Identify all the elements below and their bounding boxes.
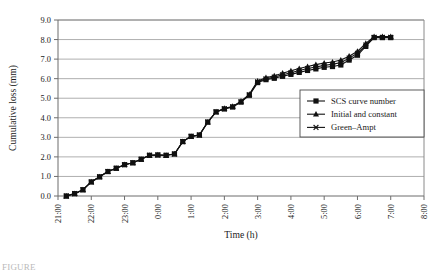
x-tick-label: 8:00 — [420, 204, 429, 219]
y-tick-label: 4.0 — [41, 114, 51, 123]
x-tick-label: 23:00 — [121, 204, 130, 223]
y-tick-label: 3.0 — [41, 133, 51, 142]
y-tick-label: 5.0 — [41, 94, 51, 103]
legend-marker-icon — [313, 98, 318, 103]
x-axis-title: Time (h) — [224, 229, 258, 241]
y-tick-label: 0.0 — [41, 192, 51, 201]
x-tick-label: 21:00 — [54, 204, 63, 223]
legend-label: Initial and constant — [331, 109, 397, 119]
chart-legend[interactable]: SCS curve numberInitial and constantGree… — [300, 90, 424, 137]
x-tick-label: 5:00 — [320, 204, 329, 219]
y-tick-label: 8.0 — [41, 36, 51, 45]
legend-label: Green–Ampt — [331, 122, 376, 132]
y-axis-ticks — [54, 20, 58, 196]
x-axis-tick-labels: 21:0022:0023:000:001:002:003:004:005:006… — [54, 204, 429, 223]
x-tick-label: 2:00 — [221, 204, 230, 219]
cumulative-loss-chart: 21:0022:0023:000:001:002:003:004:005:006… — [0, 0, 439, 270]
x-axis-ticks — [58, 196, 424, 200]
y-axis-title: Cumulative loss (mm) — [7, 65, 19, 151]
x-tick-label: 1:00 — [187, 204, 196, 219]
x-tick-label: 7:00 — [387, 204, 396, 219]
y-tick-label: 1.0 — [41, 172, 51, 181]
x-tick-label: 4:00 — [287, 204, 296, 219]
figure-caption: FIGURE — [2, 262, 36, 270]
y-tick-label: 2.0 — [41, 153, 51, 162]
y-axis-tick-labels: 0.01.02.03.04.05.06.07.08.09.0 — [41, 16, 51, 201]
y-tick-label: 7.0 — [41, 55, 51, 64]
y-tick-label: 9.0 — [41, 16, 51, 25]
y-tick-label: 6.0 — [41, 75, 51, 84]
x-tick-label: 6:00 — [354, 204, 363, 219]
figure-root: 21:0022:0023:000:001:002:003:004:005:006… — [0, 0, 439, 270]
x-tick-label: 22:00 — [87, 204, 96, 223]
legend-label: SCS curve number — [331, 96, 396, 106]
x-tick-label: 3:00 — [254, 204, 263, 219]
x-tick-label: 0:00 — [154, 204, 163, 219]
